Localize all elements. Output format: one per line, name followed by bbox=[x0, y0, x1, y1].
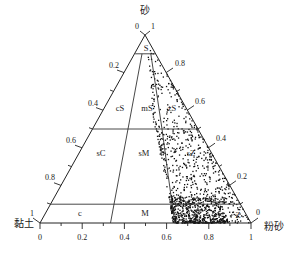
svg-text:0.8: 0.8 bbox=[204, 233, 214, 242]
region-sM: sM bbox=[139, 148, 150, 158]
region-S: S bbox=[144, 43, 149, 53]
apex-tick-left bbox=[140, 31, 145, 35]
svg-text:0.2: 0.2 bbox=[77, 233, 87, 242]
region-mS: mS bbox=[141, 103, 153, 113]
corner-label-silt: 粉砂 bbox=[264, 220, 284, 232]
ternary-diagram: 砂 0 1 黏土 1 粉砂 0 0 0.2 0.4 0.6 0.8 1 0.2 … bbox=[0, 0, 295, 258]
left-corner-tick-1: 1 bbox=[30, 209, 34, 218]
clay-mud-divider bbox=[111, 54, 143, 223]
svg-text:0.8: 0.8 bbox=[175, 59, 185, 68]
svg-text:0.4: 0.4 bbox=[216, 134, 226, 143]
svg-text:1: 1 bbox=[249, 233, 253, 242]
left-axis-ticks bbox=[33, 70, 124, 223]
apex-label-0: 0 bbox=[135, 22, 139, 31]
svg-text:0.8: 0.8 bbox=[45, 173, 55, 182]
svg-text:0.2: 0.2 bbox=[237, 172, 247, 181]
svg-text:0.6: 0.6 bbox=[195, 97, 205, 106]
region-sC: sC bbox=[97, 148, 106, 158]
region-Z: Z bbox=[235, 210, 240, 220]
apex-label-1: 1 bbox=[151, 22, 155, 31]
svg-text:0.2: 0.2 bbox=[109, 61, 119, 70]
corner-label-clay: 黏土 bbox=[14, 217, 34, 229]
left-axis-labels: 0.2 0.4 0.6 0.8 bbox=[45, 61, 119, 182]
base-axis-ticks bbox=[40, 223, 251, 229]
svg-text:0.6: 0.6 bbox=[66, 136, 76, 145]
apex-tick-right bbox=[145, 31, 150, 35]
svg-text:0.4: 0.4 bbox=[88, 99, 98, 108]
right-corner-tick-0: 0 bbox=[256, 208, 260, 217]
svg-text:0.6: 0.6 bbox=[162, 233, 172, 242]
corner-label-sand: 砂 bbox=[140, 4, 150, 16]
region-M: M bbox=[141, 208, 149, 218]
region-c: c bbox=[78, 208, 82, 218]
base-axis-labels: 0 0.2 0.4 0.6 0.8 1 bbox=[38, 233, 253, 242]
region-zS: zS bbox=[168, 103, 177, 113]
region-cS: cS bbox=[116, 103, 125, 113]
region-sZ: sZ bbox=[187, 148, 196, 158]
right-axis-labels: 0.8 0.6 0.4 0.2 bbox=[175, 59, 247, 181]
region-labels: S cS mS zS sC sM sZ c M Z bbox=[78, 43, 240, 220]
svg-text:0: 0 bbox=[38, 233, 42, 242]
svg-text:0.4: 0.4 bbox=[119, 233, 129, 242]
